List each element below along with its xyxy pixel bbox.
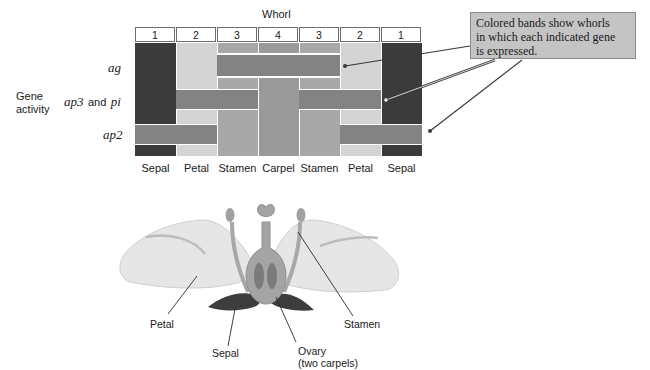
flower-label-petal: Petal xyxy=(150,318,174,330)
ovary-locule-right xyxy=(267,263,277,289)
flower-label-ovary-sub: (two carpels) xyxy=(298,357,358,369)
flower-label-ovary: Ovary xyxy=(298,345,326,357)
flower-label-stamen: Stamen xyxy=(344,318,380,330)
carpel xyxy=(246,222,286,304)
flower-label-sepal: Sepal xyxy=(212,347,239,359)
flower-illustration xyxy=(0,0,650,370)
ovary-locule-left xyxy=(254,263,264,289)
